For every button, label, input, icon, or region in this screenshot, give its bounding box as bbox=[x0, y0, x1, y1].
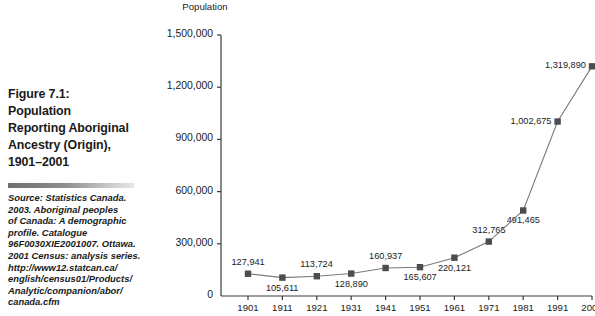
data-series bbox=[245, 63, 595, 281]
plot-svg bbox=[0, 0, 595, 316]
chart: Population 0300,000600,000900,0001,200,0… bbox=[0, 0, 595, 316]
figure-container: Figure 7.1: Population Reporting Aborigi… bbox=[0, 0, 595, 316]
axes bbox=[217, 35, 592, 300]
